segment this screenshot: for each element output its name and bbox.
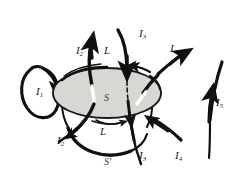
label-current-i2-top: I2 <box>76 45 83 56</box>
label-contour-l-top: L <box>104 45 110 56</box>
contour-l-bottom-arrow <box>92 121 124 124</box>
physics-diagram-canvas: I1 I2 L I3 I4 I5 S L I2 S' I3 I4 <box>0 0 241 177</box>
label-current-i3-top: I3 <box>139 28 146 39</box>
label-current-i2-bottom: I2 <box>57 135 64 146</box>
label-surface-s-prime: S' <box>104 157 111 167</box>
label-contour-l-bottom: L <box>100 126 106 137</box>
label-current-i5-right: I5 <box>216 97 223 108</box>
label-current-i3-bottom: I3 <box>139 150 146 161</box>
label-current-i4-bottom: I4 <box>175 150 182 161</box>
label-current-i4-top: I4 <box>170 43 177 54</box>
label-current-i1: I1 <box>36 86 43 97</box>
wire-i5 <box>209 62 222 158</box>
label-surface-s: S <box>104 93 109 103</box>
